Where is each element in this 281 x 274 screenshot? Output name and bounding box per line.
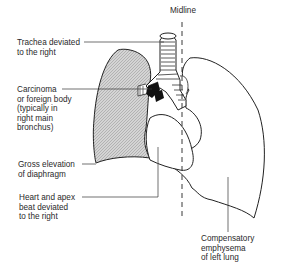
collapsed-right-lung: [93, 49, 150, 163]
carcinoma-mass-2: [154, 90, 164, 102]
emphysema-label: Compensatory emphysema of left lung: [201, 234, 254, 263]
trachea-label: Trachea deviated to the right: [17, 38, 80, 57]
diaphragm-label: Gross elevation of diaphragm: [18, 160, 75, 179]
carcinoma-label: Carcinoma or foreign body (typically in …: [17, 85, 72, 133]
heart-label: Heart and apex beat deviated to the righ…: [19, 193, 75, 222]
heart: [146, 115, 193, 171]
midline-label: Midline: [170, 6, 196, 16]
